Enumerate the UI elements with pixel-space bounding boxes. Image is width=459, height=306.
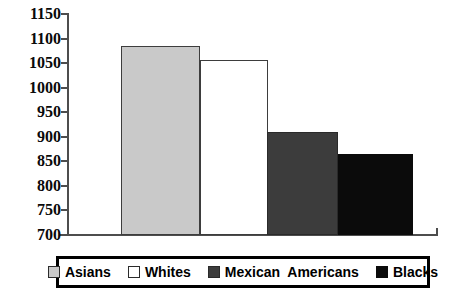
bar-chart-figure: 7007508008509009501000105011001150 Asian… bbox=[0, 0, 459, 306]
bar-whites bbox=[200, 60, 268, 235]
legend-label: Asians bbox=[65, 265, 111, 279]
y-axis-tick bbox=[61, 87, 68, 89]
y-axis-tick bbox=[61, 62, 68, 64]
bar-asians bbox=[121, 46, 200, 235]
y-axis-tick-label: 1100 bbox=[30, 31, 61, 47]
y-axis-tick-label: 800 bbox=[37, 178, 61, 194]
plot-area bbox=[68, 14, 437, 235]
y-axis-tick bbox=[61, 209, 68, 211]
legend-swatch-icon bbox=[128, 266, 140, 278]
y-axis-tick-label: 1150 bbox=[30, 6, 61, 22]
legend-swatch-icon bbox=[376, 266, 388, 278]
y-axis-tick bbox=[61, 160, 68, 162]
y-axis-tick bbox=[61, 185, 68, 187]
legend-items: AsiansWhitesMexican AmericansBlacks bbox=[48, 265, 438, 279]
legend-entry-mexican-americans: Mexican Americans bbox=[208, 265, 359, 279]
legend-entry-blacks: Blacks bbox=[376, 265, 438, 279]
legend-swatch-icon bbox=[208, 266, 220, 278]
y-axis-tick bbox=[61, 136, 68, 138]
legend-label: Mexican Americans bbox=[225, 265, 359, 279]
y-axis-tick bbox=[61, 38, 68, 40]
bar-blacks bbox=[338, 154, 413, 235]
legend-label: Whites bbox=[145, 265, 191, 279]
y-axis-tick-label: 1050 bbox=[29, 55, 61, 71]
y-axis-tick-label: 750 bbox=[37, 202, 61, 218]
y-axis-tick-label: 700 bbox=[37, 227, 61, 243]
legend-label: Blacks bbox=[393, 265, 438, 279]
y-axis-tick-label: 1000 bbox=[29, 80, 61, 96]
y-axis-tick bbox=[61, 111, 68, 113]
legend-swatch-icon bbox=[48, 266, 60, 278]
legend-entry-whites: Whites bbox=[128, 265, 191, 279]
y-axis-tick-label: 900 bbox=[37, 129, 61, 145]
legend-entry-asians: Asians bbox=[48, 265, 111, 279]
bar-mexican-americans bbox=[267, 132, 338, 235]
y-axis-tick-label: 850 bbox=[37, 153, 61, 169]
chart-legend: AsiansWhitesMexican AmericansBlacks bbox=[56, 256, 430, 288]
y-axis-tick bbox=[61, 13, 68, 15]
y-axis-tick-label: 950 bbox=[37, 104, 61, 120]
